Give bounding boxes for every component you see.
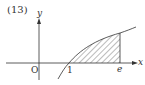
problem-number: (13): [7, 5, 28, 15]
shaded-region: [69, 33, 120, 63]
x-axis-label: x: [138, 58, 143, 67]
tick-label-e: e: [117, 65, 122, 74]
origin-label: O: [31, 66, 38, 75]
y-axis-label: y: [37, 9, 42, 18]
y-axis-arrow-icon: [37, 18, 41, 24]
tick-label-one: 1: [67, 66, 73, 75]
